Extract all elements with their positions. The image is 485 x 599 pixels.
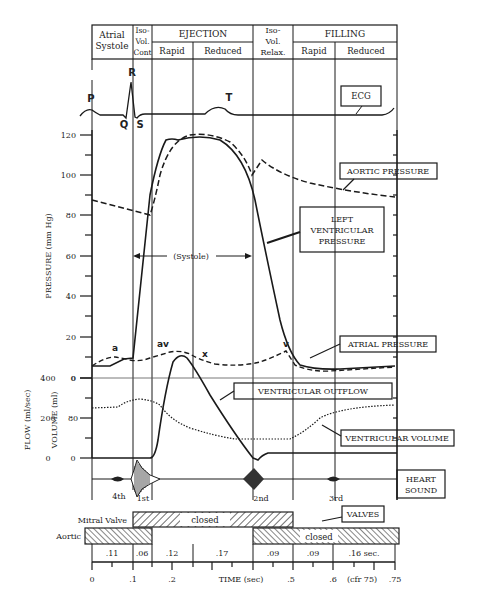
volume-tick-80: 80 bbox=[68, 414, 78, 423]
atrial-wave-av: av bbox=[157, 339, 169, 349]
phase-isovol-cont-1: Iso- bbox=[136, 26, 150, 35]
phase-isovol-cont-2: Vol. bbox=[134, 37, 149, 46]
volume-tick-0-bottom: 0 bbox=[70, 454, 75, 463]
aortic-valve-label: Aortic bbox=[55, 532, 81, 541]
lv-pressure-label-3: PRESSURE bbox=[319, 237, 366, 246]
time-tick-0: 0 bbox=[89, 575, 94, 584]
ventricular-volume-curve: VENTRICULAR VOLUME bbox=[92, 399, 454, 446]
pressure-tick-80: 80 bbox=[66, 211, 76, 220]
aortic-pressure-label: AORTIC PRESSURE bbox=[346, 167, 429, 176]
time-tick-0.75: .75 bbox=[389, 575, 402, 584]
valves: closed Mitral Valve closed Aortic VALVES bbox=[55, 506, 399, 544]
volume-axis-title: VOLUME (ml) bbox=[50, 392, 59, 450]
sound-1st: 1st bbox=[137, 494, 150, 503]
phase-atrial-systole-2: Systole bbox=[95, 41, 128, 51]
systole-label: (Systole) bbox=[173, 252, 209, 261]
aortic-valve-closed-bar-left bbox=[85, 528, 152, 544]
sound-4th: 4th bbox=[112, 492, 125, 501]
time-tick-0.6: .6 bbox=[329, 575, 337, 584]
time-tick-0.2: .2 bbox=[168, 575, 176, 584]
phase-filling-reduced: Reduced bbox=[347, 46, 385, 56]
ecg-wave-t: T bbox=[226, 92, 233, 103]
lv-pressure-label-2: VENTRICULAR bbox=[309, 226, 374, 235]
flow-tick-0: 0 bbox=[45, 454, 50, 463]
atrial-wave-a: a bbox=[112, 343, 118, 353]
atrial-wave-x: x bbox=[202, 349, 208, 359]
phase-isovol-relax-1: Iso- bbox=[266, 26, 281, 35]
cardiac-cycle-diagram: Atrial Systole Iso- Vol. Cont EJECTION R… bbox=[0, 0, 485, 599]
mitral-valve-label: Mitral Valve bbox=[78, 516, 128, 525]
phase-filling: FILLING bbox=[325, 29, 365, 39]
ecg-wave-q: Q bbox=[120, 119, 129, 130]
ventricular-outflow-curve: VENTRICULAR OUTFLOW bbox=[92, 356, 397, 460]
duration-isovol-relax: .09 bbox=[267, 549, 280, 558]
ecg-wave-s: S bbox=[136, 119, 143, 130]
duration-reduced-ejection: .17 bbox=[216, 549, 229, 558]
time-axis-note: (cfr 75) bbox=[347, 575, 377, 584]
flow-axis-title: FLOW (ml/sec) bbox=[23, 390, 32, 451]
sound-2nd: 2nd bbox=[253, 494, 268, 503]
pressure-tick-40: 40 bbox=[66, 292, 76, 301]
phase-isovol-cont-3: Cont bbox=[133, 48, 151, 57]
aortic-pressure-curve: AORTIC PRESSURE bbox=[92, 134, 437, 215]
systole-span: (Systole) bbox=[133, 252, 252, 261]
atrial-pressure-label: ATRIAL PRESSURE bbox=[347, 340, 428, 349]
duration-reduced-filling: .16 sec. bbox=[348, 549, 379, 558]
pressure-tick-60: 60 bbox=[66, 252, 76, 261]
ecg-wave-p: P bbox=[87, 93, 94, 104]
duration-rapid-filling: .09 bbox=[307, 549, 320, 558]
aortic-closed-label: closed bbox=[305, 532, 333, 542]
phase-ejection-reduced: Reduced bbox=[204, 46, 242, 56]
mitral-closed-label: closed bbox=[191, 515, 219, 525]
volume-tick-0-top: 0 bbox=[70, 374, 75, 383]
pressure-axis-title: PRESSURE (mm Hg) bbox=[44, 213, 53, 298]
pressure-tick-100: 100 bbox=[61, 171, 76, 180]
phase-atrial-systole-1: Atrial bbox=[98, 30, 125, 40]
time-tick-0.5: .5 bbox=[287, 575, 295, 584]
atrial-wave-v: v bbox=[283, 339, 289, 349]
right-axis bbox=[393, 130, 397, 500]
phase-filling-rapid: Rapid bbox=[301, 46, 327, 56]
lv-pressure-label-1: LEFT bbox=[331, 215, 354, 224]
phase-isovol-relax-2: Vol. bbox=[265, 37, 281, 46]
duration-atrial-systole: .11 bbox=[106, 549, 119, 558]
phase-header: Atrial Systole Iso- Vol. Cont EJECTION R… bbox=[92, 25, 397, 59]
ventricular-volume-label: VENTRICULAR VOLUME bbox=[344, 434, 449, 443]
phase-ejection: EJECTION bbox=[179, 29, 228, 39]
flow-tick-400: 400 bbox=[40, 374, 55, 383]
time-axis-title: TIME (sec) bbox=[219, 575, 264, 584]
phase-ejection-rapid: Rapid bbox=[159, 46, 185, 56]
duration-rapid-ejection: .12 bbox=[166, 549, 179, 558]
phase-isovol-relax-3: Relax. bbox=[260, 48, 285, 57]
pressure-tick-20: 20 bbox=[66, 333, 76, 342]
ecg-wave-r: R bbox=[128, 67, 136, 78]
ecg-label: ECG bbox=[351, 91, 371, 101]
valves-label: VALVES bbox=[346, 510, 379, 519]
duration-isovol-cont: .06 bbox=[136, 549, 149, 558]
heart-sound-label-1: HEART bbox=[406, 475, 436, 484]
time-axis: 0 .1 .2 TIME (sec) .5 .6 (cfr 75) .75 bbox=[89, 562, 401, 584]
ventricular-outflow-label: VENTRICULAR OUTFLOW bbox=[257, 387, 369, 396]
duration-row: .11 .06 .12 .17 .09 .09 .16 sec. bbox=[92, 544, 395, 562]
heart-sounds: 4th 1st 2nd 3rd HEART SOUND bbox=[92, 460, 445, 503]
time-tick-0.1: .1 bbox=[129, 575, 137, 584]
pressure-tick-120: 120 bbox=[61, 131, 76, 140]
heart-sound-label-2: SOUND bbox=[405, 486, 437, 495]
ecg-trace: P Q R S T ECG bbox=[80, 67, 394, 130]
pressure-axis: 120 100 80 60 40 20 0 PRESSURE (mm Hg) bbox=[44, 130, 92, 383]
sound-3rd: 3rd bbox=[329, 494, 343, 503]
